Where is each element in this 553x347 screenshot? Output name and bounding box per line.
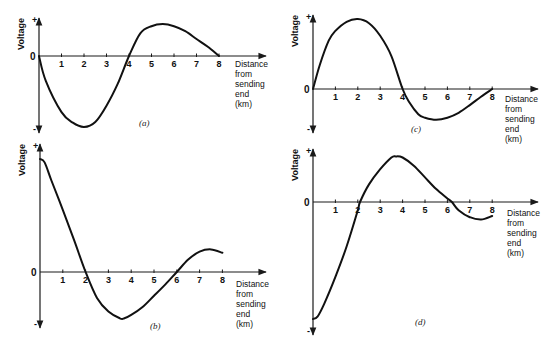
- x-axis-label: from: [507, 218, 524, 228]
- x-axis-label: Distance: [507, 208, 540, 218]
- x-tick-label: 3: [106, 275, 111, 285]
- x-tick-label: 5: [151, 275, 156, 285]
- x-axis-label: end: [236, 309, 250, 319]
- x-tick-label: 8: [220, 275, 225, 285]
- x-tick-label: 6: [171, 59, 176, 69]
- x-tick-label: 1: [333, 92, 338, 102]
- x-tick-label: 7: [467, 205, 472, 215]
- x-axis-label: end: [507, 238, 521, 248]
- x-tick-label: 1: [60, 275, 65, 285]
- x-tick-label: 2: [355, 92, 360, 102]
- x-axis-label: Distance: [235, 59, 268, 69]
- x-axis-label: sending: [505, 114, 535, 124]
- x-tick-label: 7: [197, 275, 202, 285]
- x-tick-label: 7: [194, 59, 199, 69]
- panel-a: 123456780+-VoltageDistancefromsendingend…: [16, 15, 268, 134]
- minus-sign: -: [34, 319, 37, 329]
- x-axis-label: end: [505, 124, 519, 134]
- x-tick-label: 6: [174, 275, 179, 285]
- x-axis-label: sending: [236, 299, 266, 309]
- x-tick-label: 3: [378, 205, 383, 215]
- plus-sign: +: [306, 12, 311, 22]
- y-axis-label: Voltage: [290, 149, 300, 181]
- minus-sign: -: [307, 124, 310, 134]
- x-axis-label: from: [505, 104, 522, 114]
- x-axis-label: (km): [236, 319, 253, 329]
- voltage-curve: [313, 156, 492, 319]
- x-tick-label: 5: [422, 205, 427, 215]
- minus-sign: -: [33, 124, 36, 134]
- voltage-curve: [313, 19, 492, 120]
- x-axis-label: (km): [235, 99, 252, 109]
- y-axis-label: Voltage: [290, 15, 300, 47]
- y-axis-label: Voltage: [16, 18, 26, 50]
- x-tick-label: 8: [490, 92, 495, 102]
- x-tick-label: 1: [59, 59, 64, 69]
- x-axis-label: (km): [505, 134, 522, 144]
- voltage-curve: [40, 159, 222, 319]
- plus-sign: +: [32, 15, 37, 25]
- zero-label: 0: [30, 51, 36, 62]
- x-tick-label: 6: [445, 205, 450, 215]
- x-tick-label: 4: [129, 275, 134, 285]
- x-tick-label: 7: [467, 92, 472, 102]
- panel-d: 123456780+-VoltageDistancefromsendingend…: [290, 146, 540, 336]
- x-axis-label: sending: [235, 79, 265, 89]
- y-axis-label: Voltage: [17, 144, 27, 176]
- x-axis-label: sending: [507, 228, 537, 238]
- panel-b: 123456780+-VoltageDistancefromsendingend…: [17, 141, 269, 331]
- panel-label: (b): [150, 321, 161, 331]
- x-tick-label: 2: [81, 59, 86, 69]
- panel-c: 123456780+-VoltageDistancefromsendingend…: [290, 12, 538, 144]
- x-axis-label: Distance: [505, 94, 538, 104]
- zero-label: 0: [31, 267, 37, 278]
- x-axis-label: Distance: [236, 279, 269, 289]
- plus-sign: +: [33, 141, 38, 151]
- x-tick-label: 3: [104, 59, 109, 69]
- x-tick-label: 1: [333, 205, 338, 215]
- panel-label: (c): [411, 124, 421, 134]
- x-axis-label: end: [235, 89, 249, 99]
- zero-label: 0: [304, 197, 310, 208]
- x-tick-label: 3: [378, 92, 383, 102]
- minus-sign: -: [307, 326, 310, 336]
- x-axis-label: (km): [507, 248, 524, 258]
- x-tick-label: 8: [490, 205, 495, 215]
- x-tick-label: 6: [445, 92, 450, 102]
- x-axis-label: from: [236, 289, 253, 299]
- x-tick-label: 8: [216, 59, 221, 69]
- x-tick-label: 4: [400, 205, 405, 215]
- panel-label: (d): [415, 317, 426, 327]
- voltage-distance-figure: 123456780+-VoltageDistancefromsendingend…: [0, 0, 553, 347]
- plus-sign: +: [306, 146, 311, 156]
- x-axis-label: from: [235, 69, 252, 79]
- zero-label: 0: [304, 84, 310, 95]
- x-tick-label: 5: [149, 59, 154, 69]
- voltage-curve: [39, 24, 219, 127]
- panel-label: (a): [139, 118, 150, 128]
- x-tick-label: 5: [422, 92, 427, 102]
